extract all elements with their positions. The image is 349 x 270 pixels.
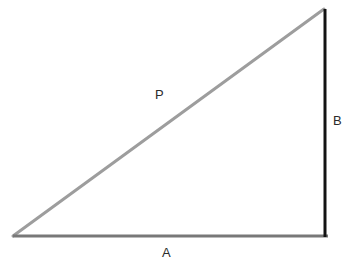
triangle-side-hypotenuse-p bbox=[13, 9, 324, 236]
hypotenuse-label-p: P bbox=[155, 88, 164, 101]
base-side-label-a: A bbox=[162, 246, 171, 259]
vertical-side-label-b: B bbox=[333, 114, 342, 127]
triangle-graphic bbox=[0, 0, 349, 270]
triangle-diagram: P B A bbox=[0, 0, 349, 270]
